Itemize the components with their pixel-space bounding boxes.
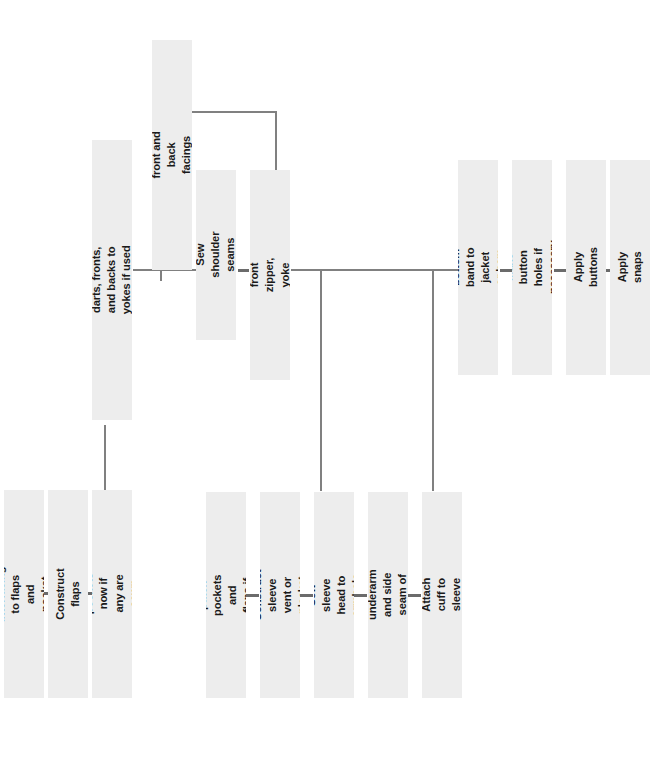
node-label-apply-flaps-pockets: Apply flaps and/or pockets now if any ar… [92, 573, 132, 614]
node-label-make-button-holes: Make button holes if necessary [512, 241, 552, 294]
node-make-button-holes[interactable]: Make button holes if necessary [512, 160, 552, 375]
node-apply-buttons[interactable]: Apply buttons [566, 160, 606, 375]
node-label-add-patch-pockets: Add patch pockets and flaps if used [206, 574, 246, 615]
node-label-construct-collar: Construct collar and front and back faci… [152, 129, 192, 180]
connector-elbow-collar-v [275, 111, 277, 171]
connector-dash-sleevehead-underarm [354, 594, 367, 597]
connector-drop-to-sleeve-col [320, 269, 322, 491]
node-label-attach-bottom-band: Attach bottom band to jacket or hem jack… [458, 248, 498, 288]
node-sew-underarm-side-seam[interactable]: Sew underarm and side seam of jacket [368, 492, 408, 698]
node-label-sew-princess-seams: Sew princess seams and/or darts, fronts,… [92, 239, 132, 321]
node-apply-collar-zipper[interactable]: Apply collar, exposed front zipper, yoke… [250, 170, 290, 380]
node-construct-sleeve-vent[interactable]: Construct sleeve vent or placket [260, 492, 300, 698]
node-label-construct-flaps: Construct flaps [53, 568, 83, 619]
node-sew-shoulder-seams[interactable]: Sew shoulder seams [196, 170, 236, 340]
connector-elbow-collar-h [189, 111, 277, 113]
node-construct-flaps[interactable]: Construct flaps [48, 490, 88, 698]
connector-riser-flaps-to-princess [104, 425, 106, 491]
node-label-apply-buttons: Apply buttons [571, 248, 601, 288]
connector-dash-underarm-cuff [408, 594, 421, 597]
node-attach-bottom-band[interactable]: Attach bottom band to jacket or hem jack… [458, 160, 498, 375]
node-label-apply-collar-zipper: Apply collar, exposed front zipper, yoke… [250, 253, 290, 297]
node-label-attach-cuff: Attach cuff to sleeve [422, 575, 462, 615]
node-apply-interfacing[interactable]: Apply interfacing to flaps and pocket fa… [4, 490, 44, 698]
node-apply-flaps-pockets[interactable]: Apply flaps and/or pockets now if any ar… [92, 490, 132, 698]
node-sew-princess-seams[interactable]: Sew princess seams and/or darts, fronts,… [92, 140, 132, 420]
flowchart-canvas: Apply interfacing to flaps and pocket fa… [0, 0, 658, 775]
node-label-sew-sleeve-head: Sew sleeve head to armhole [314, 574, 354, 616]
connector-dash-patch-vent [246, 594, 259, 597]
node-apply-snaps[interactable]: Apply snaps [610, 160, 650, 375]
connector-dash-vent-sleevehead [300, 594, 313, 597]
node-label-construct-sleeve-vent: Construct sleeve vent or placket [260, 569, 300, 620]
connector-drop-to-cuff-col [432, 269, 434, 491]
connector-dash-shoulder-collar [238, 269, 249, 272]
node-label-sew-underarm-side-seam: Sew underarm and side seam of jacket [368, 570, 408, 620]
node-label-apply-snaps: Apply snaps [615, 248, 645, 288]
node-sew-sleeve-head[interactable]: Sew sleeve head to armhole [314, 492, 354, 698]
node-construct-collar[interactable]: Construct collar and front and back faci… [152, 40, 192, 270]
node-label-sew-shoulder-seams: Sew shoulder seams [196, 232, 236, 278]
connector-stub-princess-to-spine [160, 269, 162, 281]
node-label-apply-interfacing: Apply interfacing to flaps and pocket fa… [4, 566, 44, 622]
node-add-patch-pockets[interactable]: Add patch pockets and flaps if used [206, 492, 246, 698]
node-attach-cuff[interactable]: Attach cuff to sleeve [422, 492, 462, 698]
